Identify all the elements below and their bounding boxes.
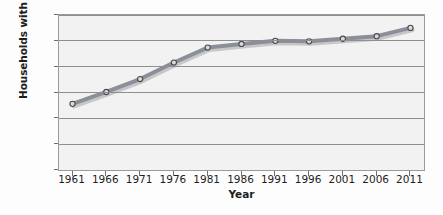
data-point-marker xyxy=(205,45,210,50)
y-axis-title: Households with one person (%) xyxy=(17,0,33,99)
chart-figure: Households with one person (%) 051015202… xyxy=(0,0,443,215)
x-axis-tick-mark xyxy=(342,171,343,176)
x-axis-tick-mark xyxy=(139,171,140,176)
plot-inner xyxy=(59,15,424,170)
x-axis-tick-mark xyxy=(72,171,73,176)
gridline xyxy=(59,40,424,41)
data-point-marker xyxy=(138,76,143,81)
x-axis-tick-mark xyxy=(241,171,242,176)
x-axis-tick-mark xyxy=(274,171,275,176)
data-point-marker xyxy=(408,25,413,30)
x-axis-tick-mark xyxy=(308,171,309,176)
data-point-marker xyxy=(70,101,75,106)
data-point-marker xyxy=(171,60,176,65)
data-point-marker xyxy=(239,41,244,46)
gridline xyxy=(59,144,424,145)
gridline xyxy=(59,15,424,16)
x-axis-title: Year xyxy=(58,188,425,200)
gridline xyxy=(59,66,424,67)
x-axis-tick-mark xyxy=(105,171,106,176)
x-axis-tick-mark xyxy=(173,171,174,176)
x-axis-tick-mark xyxy=(376,171,377,176)
data-point-marker xyxy=(374,34,379,39)
x-axis-tick-mark xyxy=(409,171,410,176)
x-axis-tick-mark xyxy=(207,171,208,176)
plot-area xyxy=(58,14,425,171)
gridline xyxy=(59,118,424,119)
gridline xyxy=(59,92,424,93)
